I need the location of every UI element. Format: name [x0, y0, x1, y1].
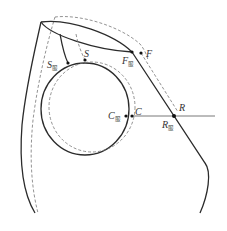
point-c-garment: [124, 114, 127, 117]
point-r: [172, 114, 176, 118]
point-c: [130, 114, 133, 117]
armhole-garment: [49, 62, 135, 152]
label-f-garment: F服: [121, 55, 134, 68]
body-outline-left: [21, 22, 41, 213]
label-s-garment: S服: [47, 59, 58, 72]
point-f-garment: [130, 50, 133, 53]
label-r-garment: R服: [161, 119, 174, 132]
point-f: [139, 51, 142, 54]
label-f: F: [145, 48, 153, 59]
armhole-body: [41, 63, 129, 155]
garment-outline-right: [141, 53, 178, 112]
body-outline-right: [132, 52, 209, 213]
garment-outline-left: [31, 17, 55, 213]
label-r: R: [178, 102, 185, 113]
armhole-diagram: S服 S F F服 C服 C R R服: [0, 0, 227, 231]
point-s-garment: [66, 61, 69, 64]
label-c: C: [135, 106, 142, 117]
label-s: S: [84, 48, 89, 59]
label-c-garment: C服: [108, 110, 121, 123]
